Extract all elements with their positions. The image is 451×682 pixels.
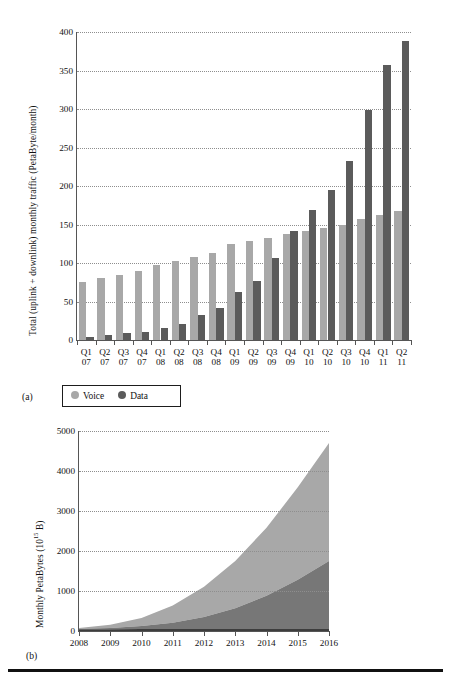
chart-b-y-tick-label: 3000 <box>57 506 75 516</box>
chart-a-x-tick-label: Q109 <box>229 347 240 367</box>
chart-b-x-tick-label: 2009 <box>101 638 119 648</box>
chart-a-bar-voice <box>190 257 197 340</box>
chart-b-x-tick-label: 2016 <box>320 638 338 648</box>
chart-a-x-tick <box>207 340 208 345</box>
chart-b-x-tick <box>329 631 330 636</box>
chart-b-gridline <box>79 471 329 472</box>
chart-a-bar-data <box>365 110 372 340</box>
chart-a-x-tick-year: 08 <box>211 357 222 367</box>
chart-a-x-tick-label: Q309 <box>266 347 277 367</box>
chart-a-x-tick-label: Q209 <box>248 347 259 367</box>
chart-b-x-tick <box>79 631 80 636</box>
chart-a-y-tick-label: 250 <box>59 143 73 153</box>
chart-a-bar-voice <box>172 261 179 340</box>
chart-a-x-tick-quarter: Q4 <box>359 347 370 357</box>
chart-a-x-tick-quarter: Q4 <box>285 347 296 357</box>
chart-b-gridline <box>79 511 329 512</box>
chart-a-bar-data <box>198 315 205 340</box>
chart-a-x-tick-label: Q409 <box>285 347 296 367</box>
chart-a-bar-data <box>161 328 168 340</box>
chart-a-x-tick-year: 11 <box>396 357 407 367</box>
chart-a-x-tick-year: 10 <box>322 357 333 367</box>
chart-b-x-tick-label: 2014 <box>257 638 275 648</box>
chart-a-x-tick-label: Q211 <box>396 347 407 367</box>
chart-a-gridline <box>77 186 411 187</box>
chart-a-x-tick <box>133 340 134 345</box>
chart-b-x-tick-label: 2008 <box>70 638 88 648</box>
chart-a-x-tick-label: Q108 <box>155 347 166 367</box>
chart-a-bar-voice <box>264 238 271 340</box>
chart-a-bar-data <box>86 337 93 340</box>
chart-a-x-tick-quarter: Q1 <box>229 347 240 357</box>
chart-b-plot-area: 0100020003000400050002008200920102011201… <box>78 431 329 632</box>
chart-a-x-tick <box>392 340 393 345</box>
chart-a-x-tick <box>96 340 97 345</box>
chart-a-x-tick-year: 07 <box>136 357 147 367</box>
chart-a-y-tick-label: 50 <box>64 297 73 307</box>
chart-a-bar-data <box>179 324 186 340</box>
chart-b-gridline <box>79 591 329 592</box>
chart-a-x-tick-year: 08 <box>192 357 203 367</box>
chart-a-bar-voice <box>357 219 364 340</box>
chart-a-y-tick-label: 400 <box>59 27 73 37</box>
chart-a-x-tick <box>244 340 245 345</box>
chart-a-x-tick-quarter: Q3 <box>266 347 277 357</box>
chart-a-x-tick <box>281 340 282 345</box>
legend-item-data: Data <box>118 391 148 401</box>
chart-b-y-axis-label-main: Monthly PetaBytes (10 <box>35 539 45 628</box>
chart-b-x-tick-label: 2011 <box>164 638 182 648</box>
chart-a-x-tick <box>337 340 338 345</box>
chart-a-gridline <box>77 32 411 33</box>
chart-b-x-tick <box>267 631 268 636</box>
chart-a-bar-voice <box>227 244 234 340</box>
chart-b-y-axis-label-exponent: 15 <box>32 533 39 539</box>
chart-a-bar-voice <box>209 253 216 340</box>
chart-a-x-tick-label: Q208 <box>173 347 184 367</box>
chart-a-bar-voice <box>283 234 290 340</box>
chart-a-x-tick-quarter: Q2 <box>322 347 333 357</box>
chart-a-x-tick-year: 09 <box>266 357 277 367</box>
chart-a-x-tick <box>114 340 115 345</box>
chart-a-x-tick-label: Q310 <box>340 347 351 367</box>
chart-a-x-tick-quarter: Q4 <box>136 347 147 357</box>
chart-a-bar-data <box>309 210 316 340</box>
chart-a-x-tick <box>263 340 264 345</box>
chart-a-x-tick-label: Q110 <box>303 347 314 367</box>
chart-a-x-tick <box>355 340 356 345</box>
chart-b-x-tick <box>204 631 205 636</box>
chart-a-gridline <box>77 71 411 72</box>
chart-a-bar-data <box>235 292 242 341</box>
chart-a-x-tick-label: Q407 <box>136 347 147 367</box>
chart-a-x-tick-year: 07 <box>81 357 92 367</box>
chart-b-panel: Monthly PetaBytes (1015 B) 0100020003000… <box>0 410 451 682</box>
chart-a-x-tick-quarter: Q4 <box>211 347 222 357</box>
chart-a-x-tick-quarter: Q2 <box>248 347 259 357</box>
chart-a-x-tick-label: Q307 <box>118 347 129 367</box>
chart-b-y-tick-label: 5000 <box>57 426 75 436</box>
panel-b-tag: (b) <box>26 650 37 661</box>
chart-a-x-tick-year: 10 <box>359 357 370 367</box>
chart-a-y-tick-label: 200 <box>59 181 73 191</box>
panel-a-tag: (a) <box>22 391 33 402</box>
chart-a-bar-data <box>216 308 223 340</box>
chart-a-x-tick-year: 10 <box>303 357 314 367</box>
chart-a-legend: Voice Data <box>62 385 181 407</box>
legend-swatch-data <box>118 391 126 399</box>
chart-a-panel: Total (uplink + downlink) monthly traffi… <box>0 0 451 410</box>
chart-a-x-tick-year: 07 <box>99 357 110 367</box>
legend-swatch-voice <box>71 391 79 399</box>
chart-a-bar-voice <box>376 215 383 340</box>
chart-a-bar-data <box>290 231 297 340</box>
chart-a-x-tick-quarter: Q2 <box>396 347 407 357</box>
chart-a-y-tick-label: 100 <box>59 258 73 268</box>
chart-a-bar-voice <box>302 231 309 340</box>
chart-a-bar-voice <box>339 225 346 340</box>
chart-b-x-tick <box>110 631 111 636</box>
chart-a-bar-data <box>142 332 149 340</box>
chart-a-y-axis-label: Total (uplink + downlink) monthly traffi… <box>28 26 38 336</box>
chart-b-x-tick-label: 2013 <box>226 638 244 648</box>
chart-a-bar-voice <box>394 211 401 340</box>
chart-a-x-tick-year: 09 <box>248 357 259 367</box>
chart-a-y-tick-label: 300 <box>59 104 73 114</box>
chart-a-x-tick-year: 09 <box>229 357 240 367</box>
